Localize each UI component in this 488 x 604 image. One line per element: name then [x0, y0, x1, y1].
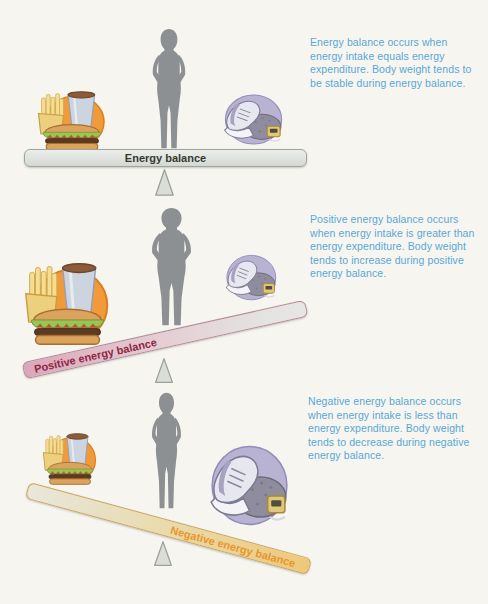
- fast-food-meal-icon: [39, 427, 101, 488]
- fast-food-meal-icon: [19, 253, 116, 350]
- beam-label: Energy balance: [125, 152, 206, 164]
- caption-negative-energy-balance: Negative energy balance occurs when ener…: [308, 395, 488, 463]
- fulcrum-triangle-icon: [153, 540, 173, 567]
- beam-energy-balance: Energy balance: [24, 149, 307, 167]
- exercise-shoes-icon: [197, 437, 298, 537]
- figure-energy-balance: Energy balance Energy balance occurs whe…: [0, 0, 488, 604]
- caption-energy-balance: Energy balance occurs when energy intake…: [310, 36, 482, 90]
- fast-food-meal-icon: [33, 84, 111, 154]
- exercise-shoes-icon: [217, 250, 283, 307]
- fulcrum-triangle-icon: [154, 357, 174, 384]
- fulcrum-triangle-icon: [154, 168, 175, 197]
- exercise-shoes-icon: [214, 89, 290, 152]
- person-silhouette: [144, 206, 199, 328]
- person-silhouette: [146, 27, 192, 151]
- caption-positive-energy-balance: Positive energy balance occurs when ener…: [310, 213, 482, 281]
- person-silhouette: [146, 391, 187, 511]
